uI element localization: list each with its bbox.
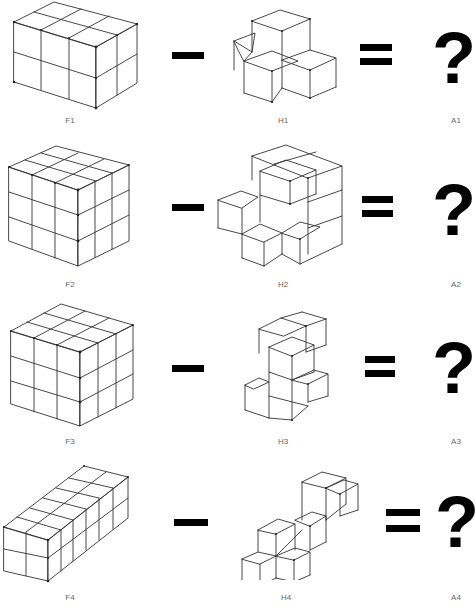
hole-h1 [230, 8, 342, 104]
figure-label-f1: F1 [55, 116, 85, 125]
hole-label-h1: H1 [268, 116, 298, 125]
figure-f3 [6, 301, 136, 429]
figure-label-f2: F2 [55, 280, 85, 289]
hole-label-h2: H2 [268, 280, 298, 289]
minus-sign [172, 365, 204, 372]
minus-sign [172, 52, 204, 59]
equals-sign [362, 196, 393, 218]
answer-question-mark: ? [432, 22, 475, 94]
minus-sign [174, 519, 208, 526]
answer-label-a2: A2 [441, 280, 471, 289]
equals-sign [360, 44, 392, 66]
hole-h4 [240, 460, 360, 580]
hole-h3 [242, 310, 334, 422]
answer-label-a3: A3 [441, 437, 471, 446]
hole-h2 [216, 142, 344, 270]
figure-label-f4: F4 [55, 593, 85, 602]
figure-label-f3: F3 [55, 437, 85, 446]
minus-sign [172, 204, 204, 211]
answer-label-a1: A1 [441, 116, 471, 125]
figure-f4 [2, 458, 132, 583]
hole-label-h4: H4 [271, 593, 301, 602]
equals-sign [365, 356, 395, 378]
hole-label-h3: H3 [268, 437, 298, 446]
figure-f1 [8, 0, 148, 112]
equals-sign [386, 509, 420, 533]
answer-question-mark: ? [432, 332, 475, 404]
answer-question-mark: ? [435, 486, 475, 558]
answer-question-mark: ? [432, 174, 475, 246]
figure-f2 [6, 145, 136, 270]
answer-label-a4: A4 [441, 593, 471, 602]
